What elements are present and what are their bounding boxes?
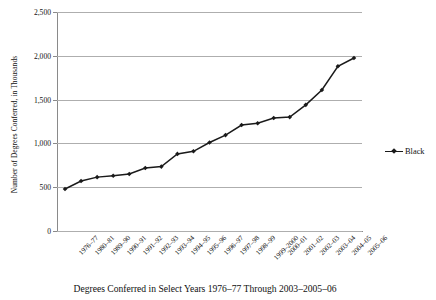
chart-figure: Number of Degrees Conferred, in Thousand… bbox=[0, 0, 436, 300]
y-axis-title: Number of Degrees Conferred, in Thousand… bbox=[10, 25, 19, 225]
data-point-marker bbox=[95, 175, 100, 180]
data-point-marker bbox=[143, 166, 148, 171]
data-point-marker bbox=[127, 172, 132, 177]
y-tick-label: 2,500 bbox=[34, 8, 51, 17]
y-tick-label: 2,000 bbox=[34, 51, 51, 60]
chart-caption: Degrees Conferred in Select Years 1976–7… bbox=[0, 283, 410, 294]
y-tick-label: 1,500 bbox=[34, 95, 51, 104]
data-point-marker bbox=[111, 174, 116, 179]
series-line bbox=[65, 58, 354, 189]
data-point-marker bbox=[271, 116, 276, 121]
y-tick-label: 1,000 bbox=[34, 139, 51, 148]
chart-legend: Black bbox=[385, 147, 425, 156]
data-point-marker bbox=[255, 121, 260, 126]
y-tick-label: 0 bbox=[47, 227, 51, 236]
plot-area: 05001,0001,5002,0002,500 bbox=[57, 12, 362, 231]
y-tick-label: 500 bbox=[40, 183, 51, 192]
series-black bbox=[57, 12, 362, 231]
legend-swatch-black bbox=[385, 151, 403, 152]
diamond-marker-icon bbox=[391, 149, 397, 155]
x-axis-tick-labels: 1976–771980–811989–901990–911991–921992–… bbox=[57, 231, 362, 281]
legend-label-black: Black bbox=[404, 147, 425, 156]
